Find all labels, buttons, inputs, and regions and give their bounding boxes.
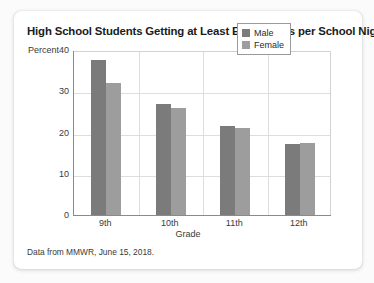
bar-group (285, 52, 315, 215)
bar-female-10th (171, 108, 186, 215)
source-note: Data from MMWR, June 15, 2018. (27, 247, 154, 257)
bar-female-11th (235, 128, 250, 215)
bar-group (220, 52, 250, 215)
y-axis-tick-label: 20 (43, 128, 69, 138)
x-axis-tick-label: 11th (202, 218, 267, 228)
y-axis-tick-label: 10 (43, 169, 69, 179)
legend-item-male: Male (242, 27, 284, 39)
y-axis-tick-label: 40 (43, 45, 69, 55)
plot-area (73, 51, 331, 216)
page-title: High School Students Getting at Least Ei… (27, 24, 353, 38)
bar-male-10th (156, 104, 171, 215)
gridline-vertical (268, 52, 269, 215)
bar-group (91, 52, 121, 215)
bar-group (156, 52, 186, 215)
x-axis-tick-label: 12th (267, 218, 332, 228)
legend-swatch-icon (242, 41, 250, 49)
legend-label: Male (254, 28, 274, 38)
gridline-vertical (139, 52, 140, 215)
bar-female-12th (300, 143, 315, 215)
y-axis-tick-label: 0 (43, 210, 69, 220)
x-axis-tick-label: 10th (138, 218, 203, 228)
chart-legend: MaleFemale (237, 23, 291, 55)
bar-male-11th (220, 126, 235, 215)
chart-card: High School Students Getting at Least Ei… (14, 11, 362, 269)
x-axis-line (73, 215, 331, 216)
y-axis-line (73, 51, 74, 216)
bar-male-12th (285, 144, 300, 215)
bar-male-9th (91, 60, 106, 215)
legend-swatch-icon (242, 29, 250, 37)
x-axis-label: Grade (14, 229, 362, 239)
y-axis-tick-label: 30 (43, 86, 69, 96)
screenshot-root: High School Students Getting at Least Ei… (0, 0, 374, 283)
bar-female-9th (106, 83, 121, 215)
legend-item-female: Female (242, 39, 284, 51)
legend-label: Female (254, 40, 284, 50)
gridline-vertical (203, 52, 204, 215)
x-axis-tick-label: 9th (73, 218, 138, 228)
